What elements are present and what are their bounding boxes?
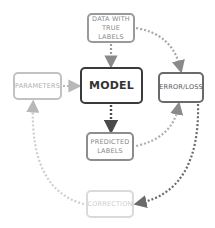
node-label-line2: LABELS <box>91 147 130 156</box>
node-error-loss: ERROR/LOSS <box>158 72 204 103</box>
edge-predicted-to-error <box>136 108 178 146</box>
node-data-with-true-labels: DATA WITH TRUE LABELS <box>87 13 135 43</box>
node-predicted-labels: PREDICTED LABELS <box>86 132 134 161</box>
edge-correction-to-params <box>33 106 84 204</box>
node-label-line1: DATA WITH <box>89 15 133 24</box>
node-label: MODEL <box>89 81 134 90</box>
node-parameters: PARAMETERS <box>13 72 62 100</box>
edge-error-to-correction <box>140 104 198 203</box>
node-label-line2: TRUE LABELS <box>89 24 133 42</box>
node-label-line1: PREDICTED <box>91 138 130 147</box>
node-label: ERROR/LOSS <box>159 83 203 92</box>
edge-data-to-error <box>136 28 180 67</box>
node-correction: CORRECTION <box>86 190 134 218</box>
node-label: PARAMETERS <box>15 82 60 91</box>
node-model: MODEL <box>80 67 143 104</box>
node-label: CORRECTION <box>87 200 132 209</box>
